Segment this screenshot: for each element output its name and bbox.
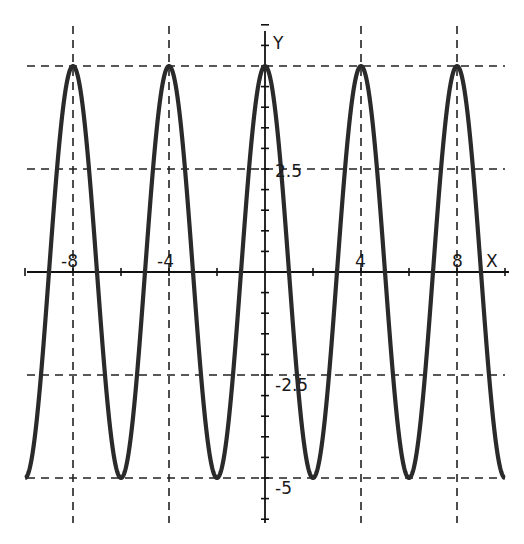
cosine-chart: Y X -8 -4 4 8 2.5 -2.5 -5 xyxy=(0,0,524,544)
y-axis-label: Y xyxy=(272,33,284,53)
x-axis-label: X xyxy=(486,251,498,271)
x-tick-label-8: 8 xyxy=(452,251,463,271)
y-tick-label-neg5: -5 xyxy=(275,478,292,498)
x-tick-label-neg4: -4 xyxy=(157,251,174,271)
y-tick-label-2-5: 2.5 xyxy=(275,161,302,181)
y-tick-label-neg2-5: -2.5 xyxy=(275,375,308,395)
x-tick-label-4: 4 xyxy=(355,251,366,271)
x-tick-label-neg8: -8 xyxy=(61,251,78,271)
